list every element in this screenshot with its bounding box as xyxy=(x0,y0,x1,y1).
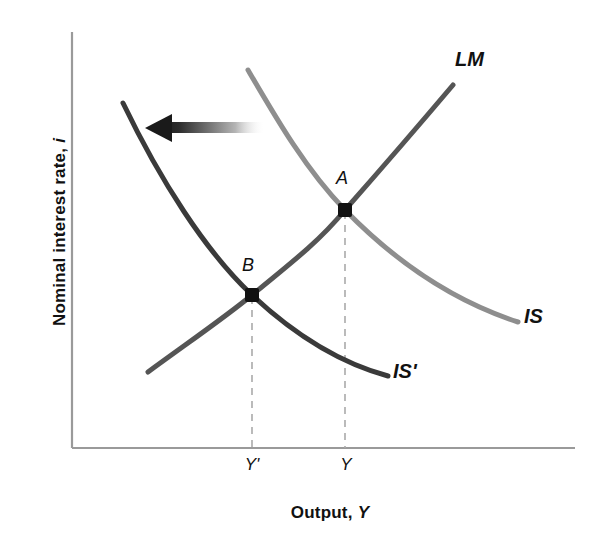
arrow-head-icon xyxy=(145,114,172,142)
x-tick-label-y-prime: Y' xyxy=(222,455,282,475)
x-axis-title: Output,Y xyxy=(170,503,490,523)
is-curve xyxy=(248,70,518,322)
equilibrium-point-b xyxy=(245,288,259,302)
chart-canvas xyxy=(0,0,603,540)
y-axis-title-text: Nominal interest rate, xyxy=(50,148,69,326)
point-label-a: A xyxy=(336,168,348,189)
equilibrium-point-a xyxy=(338,203,352,217)
x-axis-title-variable: Y xyxy=(358,503,370,522)
y-axis-title: Nominal interest rate,i xyxy=(50,102,70,362)
is-prime-curve xyxy=(123,103,388,376)
x-axis-title-text: Output, xyxy=(291,503,353,522)
is-lm-figure: LM IS IS' A B Y' Y Nominal interest rate… xyxy=(0,0,603,540)
point-label-b: B xyxy=(242,255,254,276)
x-tick-label-y: Y xyxy=(316,455,376,475)
curve-label-is: IS xyxy=(524,305,543,328)
leftward-shift-arrow xyxy=(145,114,265,142)
curve-label-is-prime: IS' xyxy=(393,360,417,383)
arrow-tail xyxy=(160,122,265,133)
curve-label-lm: LM xyxy=(455,48,484,71)
y-axis-title-variable: i xyxy=(50,138,69,143)
